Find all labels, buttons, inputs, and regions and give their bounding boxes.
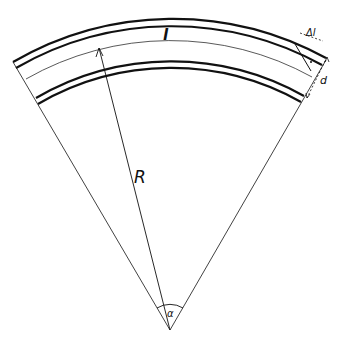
inner-arc-2 xyxy=(38,68,301,104)
right-radial-line xyxy=(170,60,326,330)
neutral-arc xyxy=(26,41,312,79)
sector-diagram: l Δl d R α xyxy=(0,0,340,343)
radius-label: R xyxy=(134,167,146,187)
radius-arrowhead xyxy=(96,48,103,57)
arc-length-label: l xyxy=(163,26,169,44)
delta-l-label: Δl xyxy=(305,27,316,38)
left-radial-line xyxy=(13,62,170,330)
angle-label: α xyxy=(167,308,174,319)
thickness-label: d xyxy=(320,74,328,87)
radius-arrow xyxy=(99,48,170,330)
right-angle-dot xyxy=(310,61,312,63)
